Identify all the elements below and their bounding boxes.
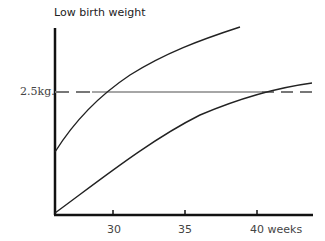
x-tick-label-30: 30 (107, 223, 121, 236)
x-tick-label-40: 40 weeks (250, 223, 302, 236)
x-tick-label-35: 35 (178, 223, 192, 236)
chart-plot (0, 0, 325, 241)
upper-curve (55, 27, 240, 152)
lower-curve (55, 83, 312, 213)
